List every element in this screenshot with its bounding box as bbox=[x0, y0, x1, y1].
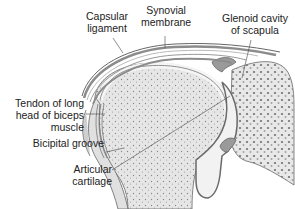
label-line: head of biceps bbox=[12, 109, 84, 121]
label-line: ligament bbox=[86, 22, 128, 34]
label-line: muscle bbox=[12, 121, 84, 133]
label-capsular-ligament: Capsular ligament bbox=[86, 10, 128, 34]
label-line: Bicipital groove bbox=[10, 137, 104, 149]
label-line: of scapula bbox=[222, 24, 288, 36]
label-articular-cartilage: Articular cartilage bbox=[50, 163, 112, 187]
label-biceps-tendon: Tendon of long head of biceps muscle bbox=[12, 97, 84, 133]
label-line: Capsular bbox=[86, 10, 128, 22]
label-line: Articular bbox=[50, 163, 112, 175]
label-line: Tendon of long bbox=[12, 97, 84, 109]
label-line: membrane bbox=[141, 16, 191, 28]
label-line: cartilage bbox=[50, 175, 112, 187]
label-synovial-membrane: Synovial membrane bbox=[141, 4, 191, 28]
scapula-bone bbox=[230, 62, 294, 185]
label-line: Glenoid cavity bbox=[222, 12, 288, 24]
label-glenoid-cavity: Glenoid cavity of scapula bbox=[222, 12, 288, 36]
label-bicipital-groove: Bicipital groove bbox=[10, 137, 104, 149]
label-line: Synovial bbox=[141, 4, 191, 16]
